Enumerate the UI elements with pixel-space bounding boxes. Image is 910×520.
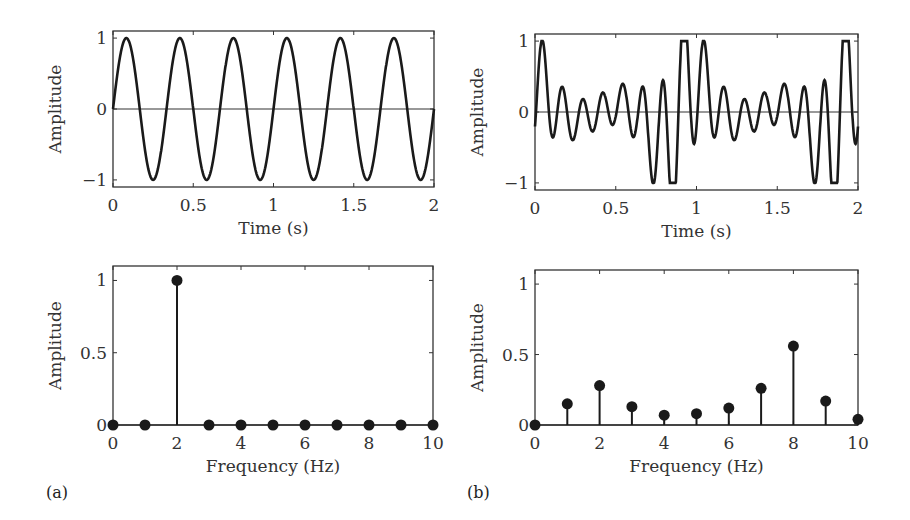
x-tick-label: 4 [236,433,247,453]
y-axis-label: Amplitude [45,65,65,155]
chart-b-time: 00.511.52−101Time (s)Amplitude [467,31,863,241]
x-axis-label: Frequency (Hz) [206,456,340,476]
stem-marker [108,420,119,431]
y-tick-label: 0 [96,99,107,119]
y-tick-label: 0 [518,415,529,435]
y-tick-label: 1 [96,270,107,290]
y-axis-label: Amplitude [45,301,65,391]
y-axis-label: Amplitude [467,303,487,393]
x-axis-label: Time (s) [238,218,308,238]
x-tick-label: 2 [172,433,183,453]
x-tick-label: 8 [788,433,799,453]
stem-marker [300,420,311,431]
y-tick-label: 0 [96,415,107,435]
x-tick-label: 1.5 [340,195,367,215]
stem-marker [853,414,864,425]
x-tick-label: 6 [300,433,311,453]
y-axis-label: Amplitude [467,68,487,158]
x-tick-label: 10 [422,433,444,453]
stem-marker [140,420,151,431]
x-tick-label: 1 [691,198,702,218]
x-tick-label: 0.5 [180,195,207,215]
x-tick-label: 2 [853,198,864,218]
stem-marker [788,341,799,352]
stem-marker [626,401,637,412]
stem-marker [562,398,573,409]
x-tick-label: 2 [594,433,605,453]
x-tick-label: 8 [364,433,375,453]
y-tick-label: 1 [96,28,107,48]
stem-marker [364,420,375,431]
y-tick-label: 1 [518,31,529,51]
stem-marker [172,275,183,286]
x-tick-label: 0 [108,433,119,453]
y-tick-label: 1 [518,274,529,294]
x-tick-label: 1 [268,195,279,215]
stem-marker [820,396,831,407]
x-tick-label: 0 [530,433,541,453]
x-tick-label: 2 [429,195,440,215]
chart-a-time: 00.511.52−101Time (s)Amplitude [45,28,439,238]
x-tick-label: 10 [847,433,869,453]
axes-frame [113,266,433,425]
y-tick-label: 0.5 [502,345,529,365]
y-tick-label: 0.5 [80,343,107,363]
stem-marker [530,420,541,431]
stem-marker [659,410,670,421]
x-tick-label: 1.5 [764,198,791,218]
stem-marker [594,380,605,391]
figure: 00.511.52−101Time (s)Amplitude00.511.52−… [0,0,910,520]
x-tick-label: 0 [530,198,541,218]
panel-label-a: (a) [46,483,68,502]
y-tick-label: −1 [504,173,529,193]
x-tick-label: 4 [659,433,670,453]
chart-b-freq: 024681000.51Frequency (Hz)Amplitude [467,270,869,476]
stem-marker [268,420,279,431]
stem-marker [396,420,407,431]
stem-marker [236,420,247,431]
stem-marker [756,383,767,394]
axes-frame [535,270,858,425]
y-tick-label: −1 [82,170,107,190]
stem-marker [723,403,734,414]
stem-marker [204,420,215,431]
x-tick-label: 6 [723,433,734,453]
stem-marker [691,408,702,419]
x-tick-label: 0.5 [602,198,629,218]
stem-marker [428,420,439,431]
stem-marker [332,420,343,431]
x-tick-label: 0 [108,195,119,215]
chart-a-freq: 024681000.51Frequency (Hz)Amplitude [45,266,444,476]
x-axis-label: Time (s) [661,221,731,241]
x-axis-label: Frequency (Hz) [629,456,763,476]
y-tick-label: 0 [518,102,529,122]
panel-label-b: (b) [467,483,490,502]
